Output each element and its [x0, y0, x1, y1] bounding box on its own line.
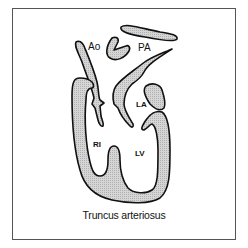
left-atrial-appendage: [144, 84, 164, 110]
label-left-atrium: LA: [136, 101, 147, 109]
label-aorta: Ao: [88, 42, 100, 52]
label-pulmonary-artery: PA: [138, 43, 151, 53]
diagram-caption: Truncus arteriosus: [0, 209, 248, 221]
label-left-ventricle: LV: [135, 150, 145, 158]
label-right-ventricle: RI: [93, 141, 101, 149]
pulmonary-arch: [121, 26, 177, 41]
truncus-hook: [107, 37, 130, 59]
